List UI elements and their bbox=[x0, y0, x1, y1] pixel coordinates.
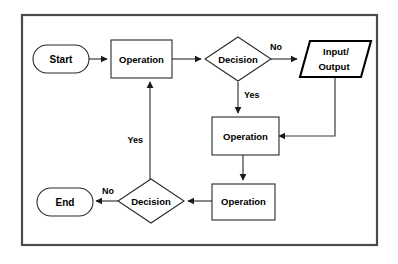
node-input-output-label-line1: Input/ bbox=[323, 46, 349, 57]
edge-label-decision1-no: No bbox=[270, 42, 282, 52]
flowchart-svg: Start Operation Decision Input/ Output O… bbox=[0, 0, 398, 264]
node-start-label: Start bbox=[50, 54, 73, 65]
flowchart-canvas: Start Operation Decision Input/ Output O… bbox=[0, 0, 398, 264]
node-decision-1-label: Decision bbox=[218, 54, 258, 65]
node-operation-3-label: Operation bbox=[221, 196, 266, 207]
node-end-label: End bbox=[56, 197, 75, 208]
edge-label-decision1-yes: Yes bbox=[244, 90, 260, 100]
node-operation-2-label: Operation bbox=[223, 131, 268, 142]
node-input-output-label-line2: Output bbox=[318, 61, 350, 72]
node-operation-1-label: Operation bbox=[119, 54, 164, 65]
edge-label-decision2-yes: Yes bbox=[127, 135, 143, 145]
edge-label-decision2-no: No bbox=[102, 186, 114, 196]
node-decision-2-label: Decision bbox=[131, 196, 171, 207]
